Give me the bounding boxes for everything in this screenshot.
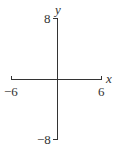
x-axis-label: x <box>106 72 112 85</box>
x-axis-min-label: −6 <box>4 85 18 98</box>
y-axis-label: y <box>55 3 61 16</box>
y-axis-max-label: 8 <box>44 12 51 25</box>
axes-graphic <box>0 0 119 152</box>
y-axis-min-label: −8 <box>37 133 51 146</box>
x-axis-max-label: 6 <box>98 85 105 98</box>
